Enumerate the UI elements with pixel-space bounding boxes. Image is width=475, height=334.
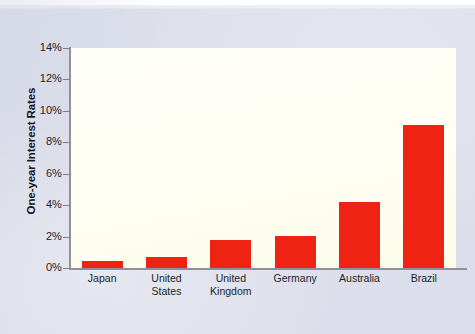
bar-germany (275, 236, 316, 268)
bar-slot (327, 48, 391, 268)
y-axis-tick-labels: 0%2%4%6%8%10%12%14% (12, 0, 62, 334)
bar-slot (392, 48, 456, 268)
bar-slot (199, 48, 263, 268)
y-axis-tick-mark (63, 48, 70, 49)
bar-united-kingdom (210, 240, 251, 268)
x-axis-line (69, 268, 467, 270)
bar-slot (70, 48, 134, 268)
y-axis-tick-mark (63, 174, 70, 175)
y-axis-tick-mark (63, 79, 70, 80)
x-axis-label-brazil: Brazil (381, 272, 467, 285)
x-axis-label-line: Kingdom (188, 285, 274, 298)
y-axis-tick-mark (63, 142, 70, 143)
y-axis-tick-mark (63, 268, 70, 269)
y-axis-tick-label: 0% (20, 261, 62, 273)
bar-japan (82, 261, 123, 268)
chart-figure: 0%2%4%6%8%10%12%14% One-year Interest Ra… (0, 0, 475, 334)
bar-australia (339, 202, 380, 268)
bar-united-states (146, 257, 187, 268)
bar-slot (134, 48, 198, 268)
x-axis-category-labels: JapanUnitedStatesUnitedKingdomGermanyAus… (70, 272, 456, 322)
y-axis-title: One-year Interest Rates (25, 51, 37, 251)
y-axis-tick-mark (63, 111, 70, 112)
y-axis-tick-mark (63, 205, 70, 206)
bar-slot (263, 48, 327, 268)
x-axis-label-line: Brazil (381, 272, 467, 285)
bar-brazil (403, 125, 444, 268)
plot-area (70, 48, 456, 268)
y-axis-tick-mark (63, 237, 70, 238)
